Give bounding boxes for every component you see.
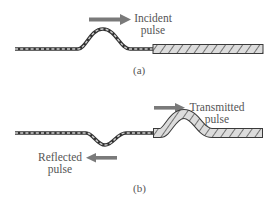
reflected-label-line2: pulse xyxy=(37,163,83,175)
transmitted-label-line1: Transmitted xyxy=(186,101,248,113)
caption-b: (b) xyxy=(133,182,146,194)
reflected-label-line1: Reflected xyxy=(37,151,83,163)
incident-pulse-label: Incident pulse xyxy=(131,12,175,36)
thin-rope-b xyxy=(15,133,153,145)
incident-label-line2: pulse xyxy=(131,24,175,36)
transmitted-pulse-label: Transmitted pulse xyxy=(186,101,248,125)
transmitted-label-line2: pulse xyxy=(186,113,248,125)
caption-a: (a) xyxy=(133,64,145,76)
reflected-arrow-icon xyxy=(86,153,117,163)
reflected-pulse-label: Reflected pulse xyxy=(37,151,83,175)
incident-arrow-icon xyxy=(89,14,131,25)
incident-label-line1: Incident xyxy=(131,12,175,24)
thick-rope-a xyxy=(153,45,263,54)
